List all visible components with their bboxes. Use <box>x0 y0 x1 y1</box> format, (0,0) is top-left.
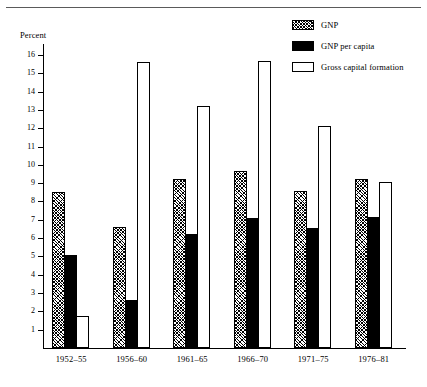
x-axis-tick-label: 1956–60 <box>116 354 147 365</box>
y-axis-tick-label: 15 <box>27 68 35 77</box>
y-axis-tick-label: 8 <box>31 196 35 205</box>
hatched-swatch-icon <box>292 20 314 30</box>
bar-gross-capital-formation <box>197 106 210 348</box>
x-axis-tick-label: 1952–55 <box>56 354 87 365</box>
y-axis-title: Percent <box>20 30 46 40</box>
x-axis-labels: 1952–551956–601961–651966–701971–751976–… <box>43 354 406 368</box>
y-axis-tick-label: 12 <box>27 123 35 132</box>
plot-area: 12345678910111213141516 <box>43 44 406 349</box>
bar-gross-capital-formation <box>258 61 271 348</box>
x-axis-line <box>43 348 406 349</box>
y-axis-tick-label: 7 <box>31 215 35 224</box>
bar-gnp-per-capita <box>125 300 138 348</box>
y-axis-tick-label: 16 <box>27 50 35 59</box>
x-axis-tick-label: 1961–65 <box>177 354 208 365</box>
bar-gnp-per-capita <box>367 217 380 348</box>
top-divider <box>6 7 421 8</box>
x-axis-tick-label: 1971–75 <box>298 354 329 365</box>
x-axis-tick-label: 1976–81 <box>358 354 389 365</box>
bar-gnp-per-capita <box>185 234 198 348</box>
y-axis-tick-label: 9 <box>31 178 35 187</box>
x-axis-tick-label: 1966–70 <box>237 354 268 365</box>
bar-gnp-per-capita <box>306 228 319 348</box>
bar-gross-capital-formation <box>76 316 89 348</box>
bar-gross-capital-formation <box>318 126 331 348</box>
chart-page: GNPGNP per capitaGross capital formation… <box>0 0 427 387</box>
bar-gnp-per-capita <box>246 218 259 348</box>
y-axis-tick-label: 1 <box>31 325 35 334</box>
y-axis-tick-label: 2 <box>31 306 35 315</box>
bar-gross-capital-formation <box>137 62 150 348</box>
bars-layer <box>43 44 406 348</box>
y-axis-tick-label: 4 <box>31 270 35 279</box>
y-axis-tick-label: 5 <box>31 251 35 260</box>
y-axis-tick-label: 11 <box>27 142 35 151</box>
y-axis-tick-label: 10 <box>27 160 35 169</box>
bar-gross-capital-formation <box>379 182 392 348</box>
y-axis-tick-label: 3 <box>31 288 35 297</box>
bar-gnp-per-capita <box>64 255 77 348</box>
legend-item-label: GNP <box>321 20 338 30</box>
legend-item: GNP <box>292 19 424 31</box>
y-axis-tick-label: 14 <box>27 87 35 96</box>
y-axis-tick-label: 13 <box>27 105 35 114</box>
y-axis-tick-label: 6 <box>31 233 35 242</box>
